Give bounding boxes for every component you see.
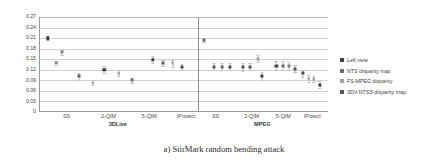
data-point-marker (312, 78, 315, 81)
error-bar-cap (220, 70, 223, 71)
error-bar-cap (117, 76, 120, 77)
error-bar-cap (256, 55, 259, 56)
gridline (40, 101, 328, 102)
error-bar-cap (260, 72, 263, 73)
y-tick-label: 0.15 (26, 56, 36, 61)
data-point-marker (220, 66, 223, 69)
error-bar-cap (61, 55, 64, 56)
y-tick-label: 0.21 (26, 35, 36, 40)
data-point-marker (162, 62, 165, 65)
error-bar-cap (151, 63, 154, 64)
y-tick-label: 0.09 (26, 78, 36, 83)
data-point-marker (275, 64, 278, 67)
data-point-marker (203, 38, 206, 41)
error-bar-cap (91, 85, 94, 86)
panel-label: MPEG (254, 121, 270, 127)
data-point-marker (91, 81, 94, 84)
error-bar-cap (46, 40, 49, 41)
legend-item[interactable]: FS-MPEG disparity (340, 76, 446, 87)
chart-legend: Left viewNTS disparity mapFS-MPEG dispar… (340, 55, 446, 97)
y-tick-label: 0.03 (26, 99, 36, 104)
error-bar-cap (281, 70, 284, 71)
gridline (40, 28, 328, 29)
error-bar-cap (301, 70, 304, 71)
error-bar-cap (212, 70, 215, 71)
error-bar-cap (275, 70, 278, 71)
figure-container: 0.270.240.210.180.150.120.090.060.030 SS… (0, 0, 448, 163)
error-bar-cap (312, 82, 315, 83)
data-point-marker (256, 57, 259, 60)
error-bar-cap (256, 62, 259, 63)
legend-swatch-icon (340, 58, 344, 62)
error-bar-cap (248, 63, 251, 64)
x-tick-label: 5-QIM (142, 113, 157, 119)
x-tick-label: 2-QIM (101, 113, 116, 119)
gridline (40, 80, 328, 81)
error-bar-cap (294, 72, 297, 73)
legend-swatch-icon (340, 79, 344, 83)
data-point-marker (77, 75, 80, 78)
data-point-marker (61, 51, 64, 54)
error-bar-cap (301, 77, 304, 78)
x-tick-label: 5-QIM (276, 113, 291, 119)
y-tick-label: 0.06 (26, 88, 36, 93)
x-tick-label: 2-QIM (244, 113, 259, 119)
x-tick-label: IPotect (304, 113, 321, 119)
legend-item[interactable]: NTS disparity map (340, 66, 446, 77)
panel-label: 3DLive (109, 121, 127, 127)
data-point-marker (288, 65, 291, 68)
chart-axes (39, 17, 328, 112)
data-point-marker (318, 83, 321, 86)
chart-plot-area: 0.270.240.210.180.150.120.090.060.030 SS… (8, 6, 330, 132)
gridline (40, 91, 328, 92)
error-bar-cap (294, 65, 297, 66)
gridline (40, 59, 328, 60)
error-bar-cap (318, 81, 321, 82)
y-tick-label: 0 (33, 109, 36, 114)
error-bar-cap (103, 73, 106, 74)
y-tick-label: 0.24 (26, 25, 36, 30)
x-tick-label: SS (63, 113, 70, 119)
data-point-marker (282, 64, 285, 67)
error-bar-cap (103, 66, 106, 67)
error-bar-cap (203, 42, 206, 43)
error-bar-cap (180, 70, 183, 71)
error-bar-cap (281, 61, 284, 62)
legend-item[interactable]: 3DV-NTSS disparity map (340, 87, 446, 98)
error-bar-cap (241, 71, 244, 72)
gridline (40, 38, 328, 39)
y-tick-label: 0.12 (26, 67, 36, 72)
error-bar-cap (220, 63, 223, 64)
panel-divider (198, 17, 199, 111)
data-point-marker (249, 65, 252, 68)
error-bar-cap (318, 88, 321, 89)
data-point-marker (260, 75, 263, 78)
error-bar-cap (162, 66, 165, 67)
y-axis-tick-labels: 0.270.240.210.180.150.120.090.060.030 (8, 6, 38, 112)
legend-label: NTS disparity map (347, 68, 391, 74)
error-bar-cap (248, 70, 251, 71)
data-point-marker (55, 61, 58, 64)
data-point-marker (171, 62, 174, 65)
error-bar-cap (131, 83, 134, 84)
data-point-marker (301, 72, 304, 75)
error-bar-cap (287, 62, 290, 63)
data-point-marker (307, 77, 310, 80)
error-bar-cap (307, 75, 310, 76)
legend-item[interactable]: Left view (340, 55, 446, 66)
x-tick-label: IProtect (177, 113, 196, 119)
data-point-marker (241, 65, 244, 68)
error-bar-cap (307, 82, 310, 83)
data-point-marker (103, 68, 106, 71)
error-bar-cap (312, 76, 315, 77)
error-bar-cap (228, 70, 231, 71)
data-point-marker (118, 72, 121, 75)
error-bar-cap (287, 70, 290, 71)
error-bar-cap (260, 80, 263, 81)
data-point-marker (131, 79, 134, 82)
error-bar-cap (275, 61, 278, 62)
figure-caption: a) StirMark random bending attack (0, 144, 448, 154)
data-point-marker (212, 65, 215, 68)
gridline (40, 70, 328, 71)
error-bar-cap (171, 60, 174, 61)
